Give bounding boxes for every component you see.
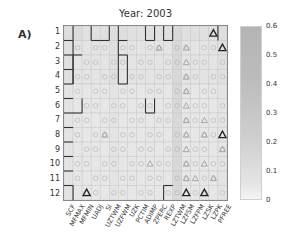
heatmap-cell (200, 41, 209, 56)
heatmap-cell (146, 128, 155, 143)
heatmap-cell (182, 157, 191, 172)
y-tick-label: 7 (55, 115, 60, 125)
heatmap-cell (182, 99, 191, 114)
heatmap-cell (173, 99, 182, 114)
heatmap-cell (82, 26, 91, 41)
heatmap-cell (173, 171, 182, 186)
heatmap-cell (73, 113, 82, 128)
heatmap-cell (209, 70, 218, 85)
heatmap-cell (155, 157, 164, 172)
y-tick-label: 12 (50, 189, 60, 199)
heatmap-cell (118, 113, 127, 128)
heatmap-cell (173, 128, 182, 143)
heatmap-cell (82, 142, 91, 157)
heatmap-cell (164, 113, 173, 128)
heatmap-cell (127, 55, 136, 70)
panel-label: A) (18, 28, 32, 41)
heatmap-cell (127, 142, 136, 157)
heatmap-cell (136, 186, 145, 201)
y-tick-label: 6 (55, 101, 60, 111)
heatmap-cell (91, 26, 100, 41)
heatmap-cell (127, 99, 136, 114)
heatmap-cell (146, 99, 155, 114)
heatmap-cell (136, 142, 145, 157)
heatmap-cell (182, 186, 191, 201)
heatmap-cell (82, 70, 91, 85)
heatmap-cell (64, 84, 73, 99)
heatmap-cell (136, 128, 145, 143)
heatmap-cell (64, 142, 73, 157)
heatmap-cell (191, 26, 200, 41)
y-tick-label: 1 (55, 27, 60, 37)
heatmap-cell (218, 142, 227, 157)
heatmap-cell (182, 171, 191, 186)
heatmap-cell (136, 157, 145, 172)
heatmap-cell (64, 26, 73, 41)
heatmap-cell (191, 70, 200, 85)
heatmap-cell (218, 99, 227, 114)
heatmap-cell (73, 84, 82, 99)
heatmap-cell (209, 99, 218, 114)
heatmap-cell (173, 41, 182, 56)
heatmap-cell (109, 84, 118, 99)
heatmap-cell (127, 113, 136, 128)
heatmap-cell (209, 41, 218, 56)
heatmap-cell (136, 55, 145, 70)
heatmap-cell (164, 41, 173, 56)
heatmap-cell (100, 26, 109, 41)
heatmap-cell (200, 171, 209, 186)
heatmap-cell (64, 128, 73, 143)
colorbar-tick-label: 0.4 (266, 80, 277, 88)
heatmap-cell (91, 84, 100, 99)
heatmap-cell (191, 99, 200, 114)
heatmap-cell (136, 99, 145, 114)
heatmap-cell (209, 157, 218, 172)
heatmap-cell (146, 55, 155, 70)
heatmap-cell (73, 157, 82, 172)
heatmap-svg (64, 26, 227, 200)
heatmap-cell (109, 26, 118, 41)
heatmap-cell (209, 171, 218, 186)
heatmap-cell (127, 26, 136, 41)
heatmap-cell (64, 113, 73, 128)
heatmap-cell (200, 157, 209, 172)
heatmap-cell (82, 55, 91, 70)
heatmap-cell (155, 142, 164, 157)
heatmap-grid (63, 25, 228, 201)
heatmap-cell (118, 55, 127, 70)
heatmap-cell (155, 26, 164, 41)
heatmap-cell (218, 84, 227, 99)
colorbar (240, 26, 262, 200)
heatmap-cell (200, 84, 209, 99)
heatmap-cell (173, 157, 182, 172)
colorbar-tick-label: 0.1 (266, 167, 277, 175)
colorbar-tick-label: 0.2 (266, 138, 277, 146)
heatmap-cell (200, 186, 209, 201)
heatmap-cell (146, 70, 155, 85)
heatmap-cell (200, 142, 209, 157)
heatmap-cell (118, 70, 127, 85)
heatmap-cell (164, 142, 173, 157)
heatmap-cell (155, 55, 164, 70)
heatmap-cell (127, 70, 136, 85)
heatmap-cell (146, 26, 155, 41)
heatmap-cell (136, 113, 145, 128)
heatmap-cell (164, 157, 173, 172)
heatmap-cell (73, 99, 82, 114)
heatmap-cell (191, 41, 200, 56)
heatmap-cell (218, 171, 227, 186)
heatmap-cell (73, 26, 82, 41)
heatmap-cell (109, 128, 118, 143)
heatmap-cell (136, 171, 145, 186)
heatmap-cell (218, 70, 227, 85)
heatmap-cell (164, 55, 173, 70)
y-tick-label: 11 (50, 174, 60, 184)
heatmap-cell (209, 26, 218, 41)
heatmap-cell (82, 41, 91, 56)
heatmap-cell (182, 70, 191, 85)
heatmap-cell (200, 55, 209, 70)
heatmap-cell (218, 26, 227, 41)
heatmap-cell (109, 70, 118, 85)
heatmap-cell (118, 41, 127, 56)
heatmap-cell (146, 84, 155, 99)
